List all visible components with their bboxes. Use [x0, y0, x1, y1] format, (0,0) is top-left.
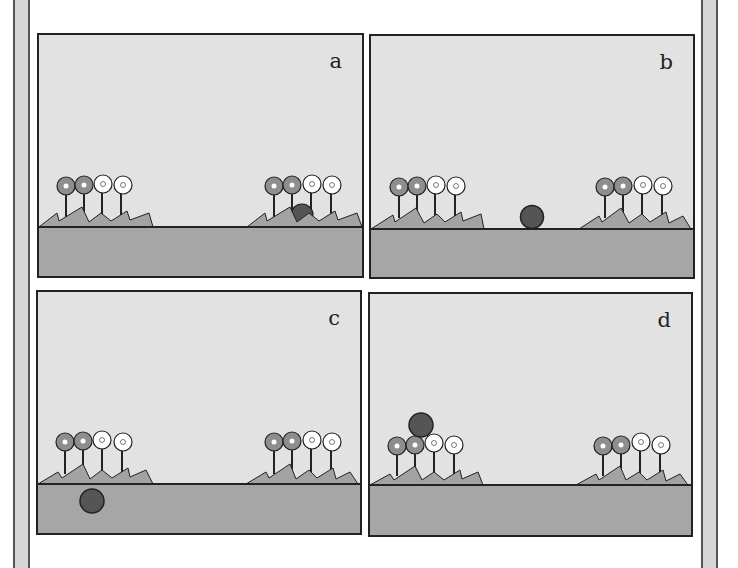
panel-label: a	[329, 49, 342, 73]
flower-bed-left	[370, 434, 483, 485]
flower-bed-right	[246, 431, 358, 484]
panel-b: b	[369, 34, 695, 279]
left-border-bar	[13, 0, 30, 568]
scene-b	[371, 36, 693, 277]
flower-bed-right	[579, 176, 691, 229]
panel-label: c	[328, 306, 340, 330]
panel-label: d	[658, 308, 671, 332]
flower-bed-right	[576, 433, 688, 485]
scene-a	[39, 35, 362, 276]
flower-bed-left	[371, 176, 484, 229]
ball	[409, 413, 433, 437]
panel-a: a	[37, 33, 364, 278]
flower-bed-left	[39, 175, 153, 227]
ball	[80, 489, 104, 513]
panel-label: b	[660, 50, 673, 74]
panel-d: d	[368, 292, 693, 537]
panel-c: c	[36, 290, 362, 535]
right-border-bar	[701, 0, 718, 568]
scene-c	[38, 292, 360, 533]
flower-bed-left	[38, 431, 153, 484]
scene-d	[370, 294, 691, 535]
ball	[521, 206, 544, 229]
flower-bed-right	[247, 175, 362, 227]
